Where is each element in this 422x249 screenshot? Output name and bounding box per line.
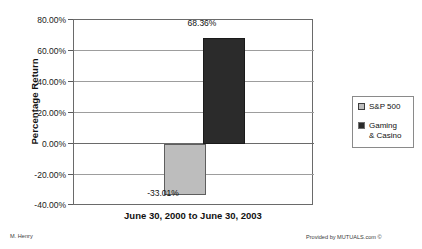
y-tick-label-neg20: -20.00% [4, 170, 66, 180]
legend-label-gaming: Gaming & Casino [369, 121, 401, 141]
bar-gaming [203, 38, 245, 144]
legend-item-gaming: Gaming & Casino [358, 121, 409, 141]
y-tick-label-neg40: -40.00% [4, 200, 66, 210]
plot-area [73, 19, 313, 205]
legend-label-sp500: S&P 500 [369, 102, 400, 112]
x-axis-title: June 30, 2000 to June 30, 2003 [73, 210, 313, 221]
y-tick-label-20: 20.00% [4, 108, 66, 118]
chart-legend: S&P 500 Gaming & Casino [352, 96, 414, 148]
bar-value-gaming: 68.36% [167, 18, 237, 28]
legend-item-sp500: S&P 500 [358, 102, 409, 112]
y-tick-label-0: 0.00% [4, 139, 66, 149]
y-tick-label-80: 80.00% [4, 15, 66, 25]
credit-author: M. Henry [10, 233, 33, 239]
gridline-40 [74, 81, 314, 82]
y-tick-label-40: 40.00% [4, 77, 66, 87]
chart-figure: Percentage Return 80.00% 60.00% 40.00% 2… [0, 0, 422, 249]
gridline-60 [74, 50, 314, 51]
bar-value-sp500: -33.01% [128, 188, 198, 198]
legend-swatch-icon-gaming [358, 122, 365, 129]
legend-swatch-icon-sp500 [358, 103, 365, 110]
credit-provider: Provided by MUTUALS.com © [306, 234, 382, 240]
y-tick-label-60: 60.00% [4, 46, 66, 56]
gridline-20 [74, 112, 314, 113]
